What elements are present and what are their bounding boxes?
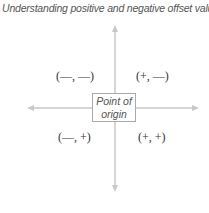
- quadrant-top-left: (—, —): [56, 69, 94, 84]
- arrow-right-icon: [192, 105, 199, 111]
- quadrant-bottom-right: (+, +): [138, 130, 166, 145]
- origin-label-line2: origin: [93, 108, 135, 121]
- point-of-origin-box: Point of origin: [92, 93, 136, 122]
- quadrant-top-right: (+, —): [136, 69, 169, 84]
- arrow-up-icon: [112, 25, 118, 32]
- arrow-down-icon: [112, 185, 118, 192]
- origin-label-line1: Point of: [93, 95, 135, 108]
- arrow-left-icon: [27, 105, 34, 111]
- quadrant-bottom-left: (—, +): [58, 130, 91, 145]
